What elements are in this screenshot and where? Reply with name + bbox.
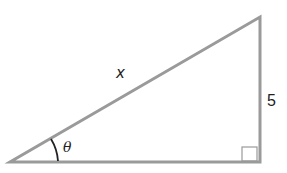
opposite-side-label: 5	[267, 93, 276, 109]
angle-label: θ	[63, 140, 71, 154]
right-angle-marker	[242, 147, 257, 161]
triangle-outline	[10, 17, 260, 162]
triangle-figure	[0, 0, 287, 173]
angle-arc	[51, 139, 58, 161]
hypotenuse-label: x	[116, 66, 125, 81]
